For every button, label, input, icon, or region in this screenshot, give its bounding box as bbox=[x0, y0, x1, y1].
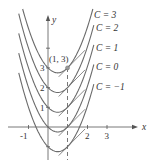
plot-canvas: x y -1 2 3 1 2 3 (1, 3) C = 3 C = 2 C = … bbox=[0, 0, 156, 160]
x-axis-label: x bbox=[141, 122, 147, 132]
y-axis-label: y bbox=[51, 15, 57, 25]
curve-label-cneg1: C = −1 bbox=[96, 82, 125, 92]
x-tick-label-2: 2 bbox=[85, 131, 90, 141]
curves bbox=[19, 9, 94, 152]
x-tick-label-neg1: -1 bbox=[20, 131, 28, 141]
y-tick-label-3: 3 bbox=[40, 63, 45, 73]
x-axis-arrow-icon bbox=[132, 125, 138, 129]
curve-label-c1: C = 1 bbox=[96, 43, 118, 53]
curve-label-c2: C = 2 bbox=[96, 23, 118, 33]
point-label: (1, 3) bbox=[49, 54, 69, 64]
y-tick-label-2: 2 bbox=[40, 83, 45, 93]
y-axis-arrow-icon bbox=[46, 15, 50, 21]
curve-label-c3: C = 3 bbox=[94, 10, 116, 20]
x-tick-label-3: 3 bbox=[105, 131, 110, 141]
parabola-family-figure: x y -1 2 3 1 2 3 (1, 3) C = 3 C = 2 C = … bbox=[0, 0, 156, 160]
curve-label-c0: C = 0 bbox=[96, 62, 118, 72]
y-tick-label-1: 1 bbox=[40, 103, 45, 113]
tangent-line bbox=[59, 129, 85, 156]
point-marker bbox=[66, 66, 70, 70]
